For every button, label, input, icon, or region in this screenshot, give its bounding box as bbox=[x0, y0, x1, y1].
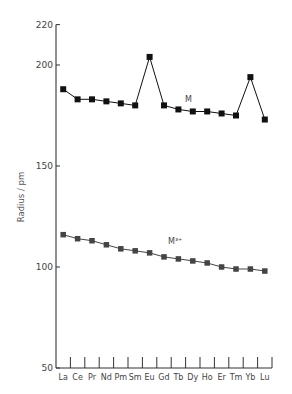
data-point-marker bbox=[60, 86, 66, 92]
data-point-marker bbox=[103, 98, 109, 104]
series-labels: MM³⁺ bbox=[168, 95, 192, 246]
x-category-label: Pm bbox=[114, 373, 127, 382]
x-category-label: Sm bbox=[129, 373, 142, 382]
series-label-trivalent-ion: M³⁺ bbox=[168, 237, 182, 246]
data-point-marker bbox=[233, 266, 239, 272]
data-point-marker bbox=[190, 258, 196, 264]
series-metal bbox=[60, 54, 268, 123]
x-category-label: Ho bbox=[202, 373, 213, 382]
data-point-marker bbox=[262, 117, 268, 123]
x-category-label: Er bbox=[217, 373, 226, 382]
y-axis: 50100150200220 bbox=[36, 20, 60, 373]
y-tick-label: 220 bbox=[36, 20, 53, 30]
data-point-marker bbox=[161, 102, 167, 108]
data-point-marker bbox=[262, 268, 268, 274]
data-point-marker bbox=[104, 242, 110, 248]
x-category-label: Lu bbox=[260, 373, 269, 382]
x-category-label: Pr bbox=[88, 373, 97, 382]
x-category-label: La bbox=[59, 373, 68, 382]
data-point-marker bbox=[147, 250, 153, 256]
data-point-marker bbox=[204, 108, 210, 114]
data-point-marker bbox=[176, 256, 182, 262]
x-category-label: Tb bbox=[172, 373, 183, 382]
x-category-label: Nd bbox=[101, 373, 112, 382]
data-point-marker bbox=[233, 113, 239, 119]
data-point-marker bbox=[161, 254, 167, 260]
x-category-label: Eu bbox=[145, 373, 155, 382]
data-point-marker bbox=[118, 100, 124, 106]
data-point-marker bbox=[247, 74, 253, 80]
data-point-marker bbox=[147, 54, 153, 60]
y-tick-label: 200 bbox=[36, 60, 53, 70]
series-line bbox=[63, 57, 265, 120]
data-point-marker bbox=[204, 260, 210, 266]
x-axis: LaCePrNdPmSmEuGdTbDyHoErTmYbLu bbox=[56, 357, 272, 382]
x-category-label: Yb bbox=[244, 373, 255, 382]
data-point-marker bbox=[75, 96, 81, 102]
data-point-marker bbox=[89, 238, 95, 244]
data-point-marker bbox=[190, 108, 196, 114]
x-category-label: Tm bbox=[229, 373, 243, 382]
data-point-marker bbox=[132, 248, 138, 254]
y-tick-label: 150 bbox=[36, 161, 53, 171]
data-point-marker bbox=[75, 236, 81, 242]
x-category-label: Gd bbox=[158, 373, 169, 382]
series-label-metal: M bbox=[185, 95, 192, 104]
lanthanide-radius-chart: 50100150200220 LaCePrNdPmSmEuGdTbDyHoErT… bbox=[0, 0, 292, 394]
series-layer bbox=[60, 54, 268, 274]
data-point-marker bbox=[175, 106, 181, 112]
data-point-marker bbox=[118, 246, 124, 252]
x-category-label: Dy bbox=[187, 373, 198, 382]
y-tick-label: 50 bbox=[42, 363, 54, 373]
series-trivalent-ion bbox=[60, 232, 267, 274]
y-tick-label: 100 bbox=[36, 262, 53, 272]
data-point-marker bbox=[89, 96, 95, 102]
data-point-marker bbox=[132, 102, 138, 108]
y-axis-title: Radius / pm bbox=[16, 172, 26, 222]
x-category-label: Ce bbox=[72, 373, 83, 382]
data-point-marker bbox=[248, 266, 254, 272]
data-point-marker bbox=[219, 264, 225, 270]
data-point-marker bbox=[219, 110, 225, 116]
data-point-marker bbox=[60, 232, 65, 238]
